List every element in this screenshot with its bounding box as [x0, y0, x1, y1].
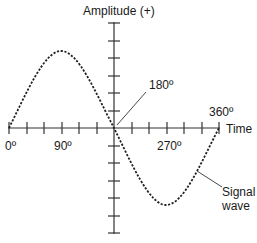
sine-wave-diagram: Amplitude (+) Time 0º 90º 180º 270º 360º…	[0, 0, 257, 243]
label-360-degrees: 360º	[209, 105, 234, 119]
label-270-degrees: 270º	[157, 139, 182, 153]
label-0-degrees: 0º	[5, 139, 17, 153]
signal-wave-label-line2: wave	[221, 199, 250, 213]
label-180-degrees: 180º	[149, 78, 174, 92]
180-leader-line	[117, 92, 146, 125]
time-axis-label: Time	[226, 122, 253, 136]
label-90-degrees: 90º	[54, 139, 72, 153]
signal-wave-leader-line	[197, 171, 222, 187]
amplitude-axis-title: Amplitude (+)	[83, 4, 155, 18]
signal-wave-label-line1: Signal	[222, 185, 255, 199]
